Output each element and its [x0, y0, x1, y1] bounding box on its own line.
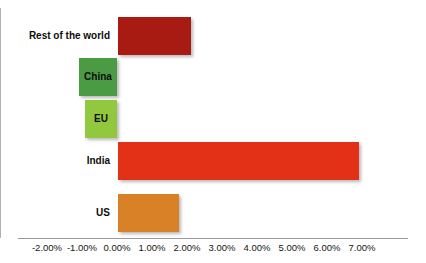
bar-rest-of-the-world[interactable]: [118, 17, 191, 55]
bar-label-rest-of-the-world: Rest of the world: [10, 31, 110, 41]
x-tick-label: -2.00%: [32, 243, 62, 253]
plot-area: Rest of the world China EU India US: [0, 0, 426, 238]
x-tick-label: 3.00%: [209, 243, 236, 253]
bar-row: US: [0, 194, 426, 232]
bar-label-eu: EU: [76, 114, 126, 124]
x-tick-label: 4.00%: [244, 243, 271, 253]
bar-row: China: [0, 58, 426, 96]
bar-row: Rest of the world: [0, 17, 426, 55]
bar-row: EU: [0, 100, 426, 138]
x-axis-tick-labels: -2.00% -1.00% 0.00% 1.00% 2.00% 3.00% 4.…: [0, 243, 426, 263]
x-tick-label: 7.00%: [349, 243, 376, 253]
x-tick-label: 2.00%: [174, 243, 201, 253]
bar-label-india: India: [10, 156, 110, 166]
x-tick-label: 6.00%: [314, 243, 341, 253]
bar-row: India: [0, 142, 426, 180]
bar-chart: Rest of the world China EU India US -2.0…: [0, 0, 426, 263]
bar-label-china: China: [73, 72, 123, 82]
x-tick-label: 0.00%: [104, 243, 131, 253]
x-tick-label: 1.00%: [139, 243, 166, 253]
bar-label-us: US: [10, 208, 110, 218]
bar-india[interactable]: [118, 142, 359, 180]
category-axis-line: [18, 238, 408, 239]
x-tick-label: -1.00%: [67, 243, 97, 253]
bar-us[interactable]: [118, 194, 179, 232]
x-tick-label: 5.00%: [279, 243, 306, 253]
